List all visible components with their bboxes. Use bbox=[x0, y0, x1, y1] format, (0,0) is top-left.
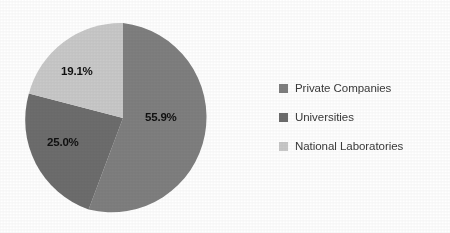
legend-item-universities[interactable]: Universities bbox=[279, 103, 447, 132]
legend-label-private-companies: Private Companies bbox=[295, 83, 391, 95]
legend-label-universities: Universities bbox=[295, 112, 354, 124]
pie-slice-value-private-companies: 55.9% bbox=[145, 112, 177, 124]
legend-label-national-laboratories: National Laboratories bbox=[295, 141, 403, 153]
legend-swatch-icon-national-laboratories bbox=[279, 142, 288, 151]
legend-item-national-laboratories[interactable]: National Laboratories bbox=[279, 132, 447, 161]
chart-legend: Private Companies Universities National … bbox=[279, 74, 447, 161]
pie-chart-figure: 55.9% 25.0% 19.1% Private Companies Univ… bbox=[0, 0, 450, 233]
legend-swatch-icon-private-companies bbox=[279, 84, 288, 93]
legend-item-private-companies[interactable]: Private Companies bbox=[279, 74, 447, 103]
pie-slice-value-national-laboratories: 19.1% bbox=[61, 66, 93, 78]
pie-chart-svg bbox=[0, 0, 260, 233]
pie-chart-plot-area: 55.9% 25.0% 19.1% bbox=[0, 0, 260, 233]
legend-swatch-icon-universities bbox=[279, 113, 288, 122]
pie-slice-value-universities: 25.0% bbox=[47, 137, 79, 149]
